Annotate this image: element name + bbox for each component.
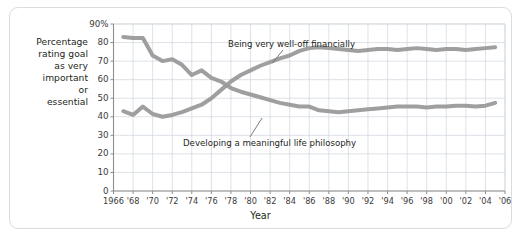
y-tick-label: 70 [83, 56, 109, 66]
y-tick-label: 20 [83, 148, 109, 158]
y-tick-label: 10 [83, 167, 109, 177]
x-axis-title: Year [0, 210, 521, 221]
y-tick-label: 50 [83, 93, 109, 103]
series-annotation-2: Developing a meaningful life philosophy [183, 138, 356, 148]
y-tick-label: 80 [83, 37, 109, 47]
y-tick-label: 0 [83, 186, 109, 196]
y-tick-label: 40 [83, 111, 109, 121]
y-tick-label: 60 [83, 74, 109, 84]
series-annotation-1: Being very well-off financially [228, 39, 355, 49]
chart-figure: Percentage rating goal as very important… [0, 0, 521, 236]
x-tick-label: '06 [490, 196, 520, 206]
y-tick-label: 90% [83, 19, 109, 29]
y-tick-label: 30 [83, 130, 109, 140]
